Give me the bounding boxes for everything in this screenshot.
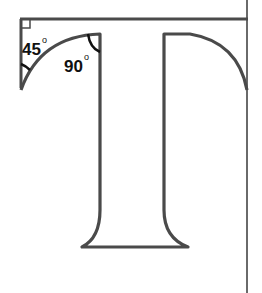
angle-90-arc — [88, 34, 100, 52]
angle-90-label: 90 — [64, 57, 83, 76]
degree-symbol-45: o — [42, 35, 47, 45]
letter-t-diagram: 45 o 90 o — [0, 0, 262, 293]
letter-t-outline — [21, 34, 247, 247]
degree-symbol-90: o — [84, 52, 89, 62]
angle-45-label: 45 — [22, 40, 41, 59]
